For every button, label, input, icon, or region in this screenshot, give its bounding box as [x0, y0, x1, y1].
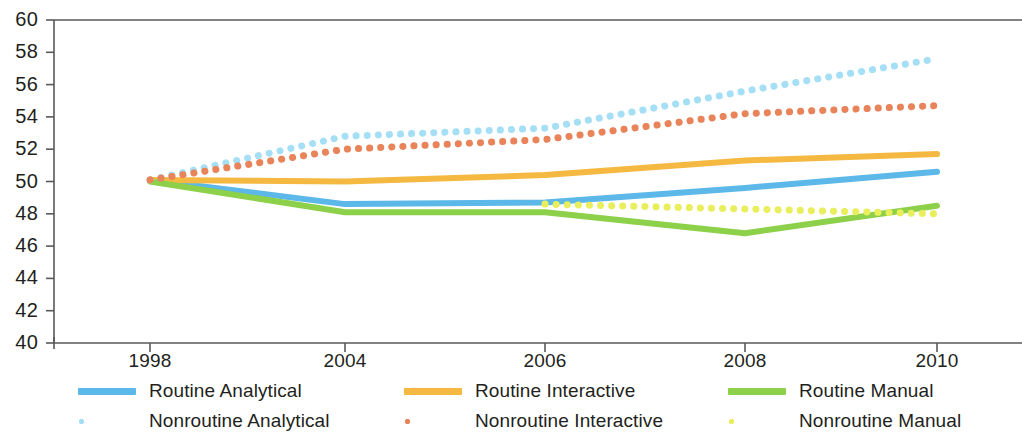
legend-swatch-dotted [404, 418, 462, 425]
x-axis-tick-label: 1998 [90, 350, 210, 372]
legend-swatch-dotted [78, 418, 136, 425]
legend-swatch-solid [78, 388, 136, 395]
series-line-nonroutine-interactive [150, 106, 937, 180]
legend-swatch-solid [728, 388, 786, 395]
line-chart: 6058565452504846444240 19982004200620082… [0, 0, 1022, 438]
x-axis-tick-label: 2004 [285, 350, 405, 372]
legend-item[interactable]: Routine Manual [728, 378, 933, 404]
legend-label: Nonroutine Manual [799, 410, 961, 432]
legend-label: Routine Manual [799, 380, 933, 402]
legend-swatch-solid [404, 388, 462, 395]
legend-item[interactable]: Routine Interactive [404, 378, 635, 404]
legend-label: Nonroutine Interactive [475, 410, 663, 432]
chart-legend: Routine AnalyticalRoutine InteractiveRou… [0, 378, 1022, 438]
legend-label: Routine Interactive [475, 380, 635, 402]
legend-item[interactable]: Nonroutine Interactive [404, 408, 663, 434]
x-axis-tick-label: 2006 [485, 350, 605, 372]
legend-label: Nonroutine Analytical [149, 410, 330, 432]
plot-area [0, 0, 1022, 360]
legend-item[interactable]: Nonroutine Analytical [78, 408, 330, 434]
legend-item[interactable]: Routine Analytical [78, 378, 302, 404]
legend-item[interactable]: Nonroutine Manual [728, 408, 961, 434]
series-line-routine-interactive [150, 154, 937, 181]
series-line-nonroutine-manual [545, 204, 937, 214]
legend-label: Routine Analytical [149, 380, 302, 402]
x-axis-tick-label: 2008 [685, 350, 805, 372]
x-axis-tick-label: 2010 [877, 350, 997, 372]
series-line-routine-manual [150, 182, 937, 234]
legend-swatch-dotted [728, 418, 786, 425]
